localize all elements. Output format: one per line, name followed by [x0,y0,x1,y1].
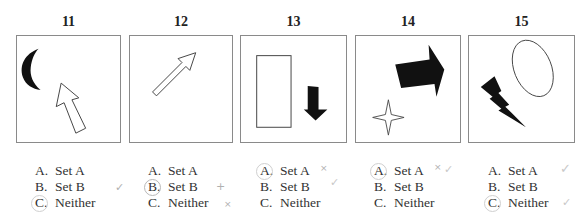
option-b[interactable]: B.Set B [374,179,434,195]
figure-box [468,35,575,143]
outline-rectangle-icon [257,56,291,128]
answer-options: A.Set A B.Set B+ C.Neither× [148,163,208,211]
option-a[interactable]: A.Set A×✓ [374,163,434,179]
question-number: 11 [16,14,121,30]
black-arrow-right-icon [395,45,444,97]
figure-canvas [469,36,574,142]
pencil-x-mark: × [320,160,328,176]
figure-box [16,35,121,143]
figure-box [129,35,233,143]
option-c[interactable]: C.Neither [374,195,434,211]
option-a[interactable]: A.Set A✓ [488,163,548,179]
circled-answer [144,179,161,196]
outline-arrow-icon [153,53,196,96]
figure-canvas [241,36,346,142]
four-point-star-icon [373,100,404,135]
option-c[interactable]: C.Neither✓ [488,195,548,211]
pencil-check-mark: ✓ [562,195,571,211]
question-number: 12 [129,14,233,30]
option-b[interactable]: B.Set B✓ [35,179,95,195]
option-a[interactable]: A.Set A× [260,163,320,179]
circled-answer [484,195,501,212]
option-b[interactable]: B.Set B✓ [260,179,320,195]
pencil-x-mark: × [224,196,232,212]
question-number: 13 [240,14,347,30]
outline-ellipse-icon [504,36,561,103]
pencil-check-mark: ✓ [115,180,124,196]
option-a[interactable]: A.Set A [148,163,208,179]
figure-canvas [130,36,232,142]
figure-canvas [17,36,120,142]
option-c[interactable]: C.Neither [35,195,95,211]
option-b[interactable]: B.Set B [488,179,548,195]
question-number: 15 [468,14,575,30]
option-a[interactable]: A.Set A [35,163,95,179]
figure-box [240,35,347,143]
answer-options: A.Set A B.Set B✓ C.Neither [35,163,95,211]
lightning-bolt-icon [481,76,526,127]
answer-options: A.Set A✓ B.Set B C.Neither✓ [488,163,548,211]
figure-box [355,35,461,143]
option-c[interactable]: C.Neither× [148,195,208,211]
answer-options: A.Set A×✓ B.Set B C.Neither [374,163,434,211]
circled-answer [256,163,273,180]
pencil-x-mark: × [434,159,442,175]
option-b[interactable]: B.Set B+ [148,179,208,195]
option-c[interactable]: C.Neither [260,195,320,211]
circled-answer [370,163,387,180]
pencil-check-mark: ✓ [560,161,571,177]
circled-answer [31,195,48,212]
pencil-plus-mark: + [216,179,225,195]
pencil-check-mark: ✓ [444,162,453,178]
outline-arrow-icon [56,83,85,133]
figure-canvas [356,36,460,142]
black-arrow-down-icon [304,86,328,120]
crescent-moon-icon [22,49,41,90]
answer-options: A.Set A× B.Set B✓ C.Neither [260,163,320,211]
pencil-check-mark: ✓ [330,175,339,191]
question-number: 14 [355,14,461,30]
